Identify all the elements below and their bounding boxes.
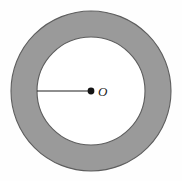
annulus-diagram: O [0, 0, 182, 181]
figure-canvas: O [0, 0, 182, 181]
center-point-label: O [98, 84, 108, 99]
center-point-dot [88, 88, 95, 95]
